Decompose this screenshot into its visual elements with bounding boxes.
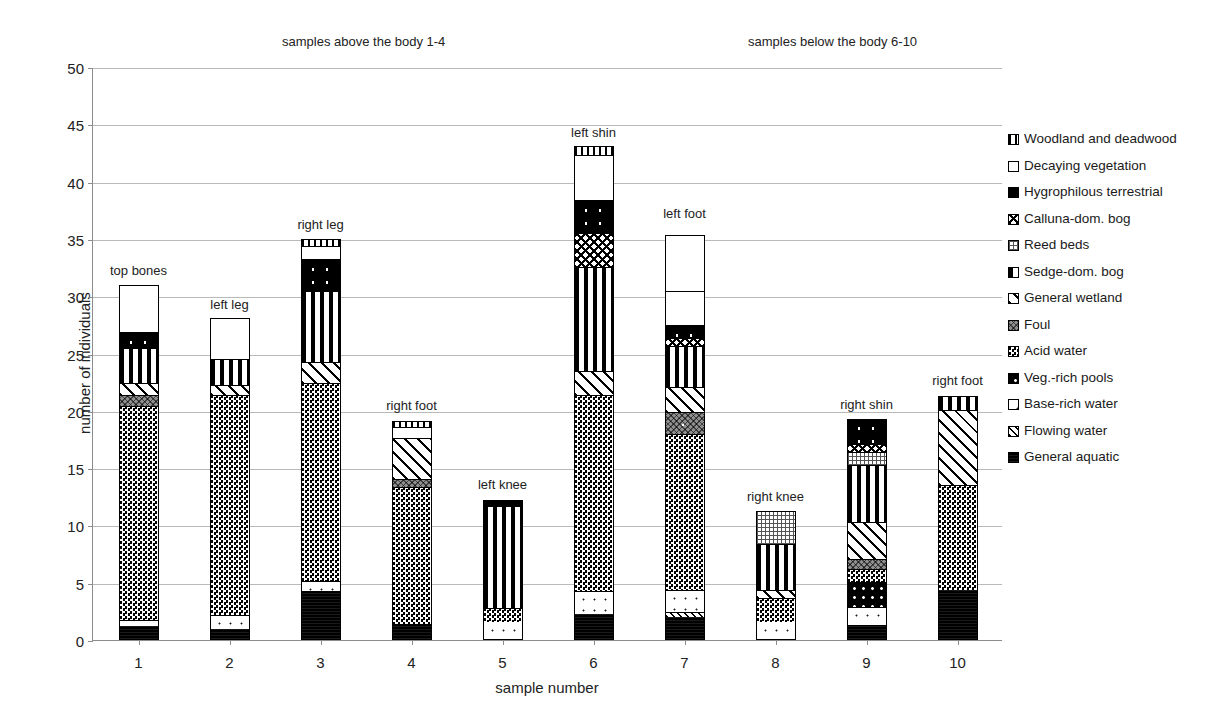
- pattern-base-rich-water: [1009, 400, 1018, 409]
- bar-segment-general-aquatic[interactable]: [575, 614, 613, 639]
- bar-segment-decaying-vegetation[interactable]: [575, 155, 613, 200]
- bar-segment-reed-beds[interactable]: [757, 511, 795, 544]
- bar-segment-general-aquatic[interactable]: [666, 617, 704, 639]
- bar-segment-sedge-dom-bog[interactable]: [939, 396, 977, 410]
- bar-segment-acid-water[interactable]: [211, 395, 249, 615]
- bar-segment-calluna-dom-bog[interactable]: [575, 233, 613, 266]
- bar-segment-base-rich-water[interactable]: [302, 581, 340, 591]
- legend-item-decaying-vegetation[interactable]: Decaying vegetation: [1008, 158, 1208, 174]
- bar-segment-acid-water[interactable]: [757, 598, 795, 622]
- bar-segment-sedge-dom-bog[interactable]: [211, 359, 249, 384]
- legend-item-calluna-dom-bog[interactable]: Calluna-dom. bog: [1008, 211, 1208, 227]
- bar-segment-sedge-dom-bog[interactable]: [848, 465, 886, 522]
- legend-item-acid-water[interactable]: Acid water: [1008, 343, 1208, 359]
- bar-segment-calluna-dom-bog[interactable]: [666, 338, 704, 346]
- stacked-bar[interactable]: [938, 396, 978, 640]
- bar-segment-decaying-vegetation[interactable]: [666, 291, 704, 325]
- bar-segment-woodland-and-deadwood[interactable]: [393, 421, 431, 427]
- stacked-bar[interactable]: [210, 318, 250, 640]
- bar-segment-flowing-water[interactable]: [666, 612, 704, 618]
- bar-segment-acid-water[interactable]: [120, 406, 158, 619]
- bar-segment-acid-water[interactable]: [393, 487, 431, 625]
- y-tick-mark: [88, 240, 93, 241]
- bar-segment-acid-water[interactable]: [302, 383, 340, 580]
- legend-item-general-wetland[interactable]: General wetland: [1008, 290, 1208, 306]
- bar-segment-general-aquatic[interactable]: [211, 629, 249, 639]
- bar-segment-reed-beds[interactable]: [848, 452, 886, 465]
- bar-segment-hygrophilous-terrestrial[interactable]: [120, 332, 158, 348]
- legend-item-woodland-and-deadwood[interactable]: Woodland and deadwood: [1008, 131, 1208, 147]
- bar-segment-decaying-vegetation[interactable]: [120, 285, 158, 332]
- bar-segment-hygrophilous-terrestrial[interactable]: [848, 419, 886, 444]
- bar-segment-hygrophilous-terrestrial[interactable]: [302, 259, 340, 291]
- bar-segment-base-rich-water[interactable]: [575, 591, 613, 614]
- pattern-hygrophilous-terrestrial: [666, 325, 704, 338]
- bar-segment-hygrophilous-terrestrial[interactable]: [484, 500, 522, 506]
- bar-segment-veg-rich-pools[interactable]: [848, 582, 886, 607]
- bar-segment-woodland-and-deadwood[interactable]: [575, 146, 613, 155]
- bar-segment-foul[interactable]: [120, 395, 158, 406]
- bar-segment-foul[interactable]: [393, 479, 431, 487]
- bar-segment-general-aquatic[interactable]: [302, 591, 340, 639]
- bar-segment-base-rich-water[interactable]: [666, 590, 704, 612]
- bar-segment-general-aquatic[interactable]: [393, 624, 431, 639]
- bar-segment-sedge-dom-bog[interactable]: [666, 346, 704, 387]
- bar-segment-calluna-dom-bog[interactable]: [848, 444, 886, 452]
- bar-segment-decaying-vegetation[interactable]: [302, 246, 340, 259]
- legend-item-veg-rich-pools[interactable]: Veg.-rich pools: [1008, 370, 1208, 386]
- stacked-bar[interactable]: [301, 239, 341, 640]
- legend-item-base-rich-water[interactable]: Base-rich water: [1008, 396, 1208, 412]
- bar-segment-base-rich-water[interactable]: [120, 620, 158, 627]
- legend-item-reed-beds[interactable]: Reed beds: [1008, 237, 1208, 253]
- bar-segment-hygrophilous-terrestrial[interactable]: [666, 325, 704, 338]
- bar-segment-base-rich-water[interactable]: [211, 615, 249, 629]
- bar-segment-general-aquatic[interactable]: [120, 626, 158, 639]
- bar-segment-acid-water[interactable]: [575, 395, 613, 591]
- bar-segment-foul[interactable]: [666, 412, 704, 434]
- legend-item-flowing-water[interactable]: Flowing water: [1008, 423, 1208, 439]
- stacked-bar[interactable]: [756, 511, 796, 640]
- bar-segment-general-wetland[interactable]: [575, 371, 613, 395]
- x-tick-label-4: 4: [392, 654, 432, 671]
- bar-segment-hygrophilous-terrestrial[interactable]: [575, 200, 613, 233]
- bar-segment-sedge-dom-bog[interactable]: [120, 348, 158, 384]
- bar-segment-general-aquatic[interactable]: [939, 590, 977, 639]
- bar-segment-base-rich-water[interactable]: [484, 622, 522, 639]
- bar-segment-sedge-dom-bog[interactable]: [484, 506, 522, 608]
- bar-segment-acid-water[interactable]: [848, 569, 886, 582]
- bar-segment-general-wetland[interactable]: [120, 383, 158, 394]
- bar-segment-acid-water[interactable]: [666, 434, 704, 590]
- bar-segment-base-rich-water[interactable]: [757, 622, 795, 639]
- stacked-bar[interactable]: [483, 500, 523, 640]
- stacked-bar[interactable]: [574, 146, 614, 640]
- legend-item-hygrophilous-terrestrial[interactable]: Hygrophilous terrestrial: [1008, 184, 1208, 200]
- segment-divider: [211, 395, 249, 396]
- bar-segment-base-rich-water[interactable]: [848, 607, 886, 625]
- bar-segment-foul[interactable]: [848, 559, 886, 569]
- bar-segment-acid-water[interactable]: [939, 485, 977, 589]
- bar-segment-sedge-dom-bog[interactable]: [575, 267, 613, 371]
- bar-caption-4: right foot: [386, 398, 437, 413]
- bar-segment-decaying-vegetation[interactable]: [211, 318, 249, 359]
- bar-segment-decaying-vegetation[interactable]: [393, 427, 431, 438]
- segment-divider: [302, 291, 340, 292]
- stacked-bar[interactable]: [665, 235, 705, 640]
- stacked-bar[interactable]: [847, 419, 887, 640]
- stacked-bar[interactable]: [392, 421, 432, 640]
- bar-segment-sedge-dom-bog[interactable]: [302, 291, 340, 362]
- bar-segment-general-wetland[interactable]: [393, 438, 431, 478]
- bar-segment-general-wetland[interactable]: [302, 362, 340, 384]
- bar-segment-general-wetland[interactable]: [848, 522, 886, 559]
- bar-segment-woodland-and-deadwood[interactable]: [302, 239, 340, 246]
- legend-item-sedge-dom-bog[interactable]: Sedge-dom. bog: [1008, 264, 1208, 280]
- bar-segment-acid-water[interactable]: [484, 608, 522, 622]
- bar-segment-general-aquatic[interactable]: [848, 625, 886, 639]
- legend-item-general-aquatic[interactable]: General aquatic: [1008, 449, 1208, 465]
- bar-segment-general-wetland[interactable]: [666, 387, 704, 412]
- bar-segment-general-wetland[interactable]: [211, 385, 249, 395]
- bar-segment-sedge-dom-bog[interactable]: [757, 544, 795, 590]
- bar-segment-general-wetland[interactable]: [939, 410, 977, 486]
- stacked-bar[interactable]: [119, 285, 159, 640]
- legend-item-foul[interactable]: Foul: [1008, 317, 1208, 333]
- bar-segment-general-wetland[interactable]: [757, 590, 795, 598]
